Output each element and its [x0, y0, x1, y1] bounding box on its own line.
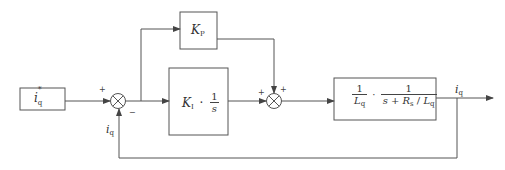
sum2-plus-left-sign: + — [258, 89, 265, 97]
kp-label: KP — [191, 24, 205, 38]
summing-junction-1 — [111, 94, 126, 109]
sum1-plus-sign: + — [99, 86, 106, 94]
feedback-label: iq — [106, 124, 114, 137]
input-label: iq* — [34, 92, 42, 106]
plant-label: 1Lq · 1s + Rs / Lq — [352, 83, 437, 108]
summing-junction-2 — [267, 94, 282, 109]
sum2-plus-top-sign: + — [280, 86, 287, 94]
sum1-minus-sign: − — [129, 109, 136, 117]
output-label: iq — [455, 84, 463, 97]
ki-label: KI · 1s — [182, 91, 220, 115]
error-to-kp-arrow — [141, 29, 180, 101]
kp-to-sum2-arrow — [217, 39, 274, 93]
input-block — [20, 88, 65, 110]
